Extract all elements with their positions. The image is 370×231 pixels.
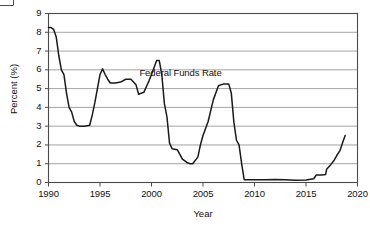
y-axis-label: Percent (%)	[9, 54, 19, 124]
y-tick-label-7: 7	[30, 46, 42, 56]
series-annotation-federal-funds-rate: Federal Funds Rate	[139, 67, 221, 78]
x-tick-label-2015: 2015	[286, 189, 326, 199]
y-tick-label-0: 0	[30, 177, 42, 187]
gridlines	[49, 32, 358, 163]
x-tick-label-2010: 2010	[235, 189, 275, 199]
y-tick-label-8: 8	[30, 27, 42, 37]
y-tick-label-2: 2	[30, 139, 42, 149]
axis-ticks	[45, 14, 358, 187]
x-tick-label-2005: 2005	[183, 189, 223, 199]
y-tick-label-1: 1	[30, 158, 42, 168]
y-tick-label-9: 9	[30, 8, 42, 18]
series-line-0	[49, 28, 346, 181]
x-tick-label-1990: 1990	[29, 189, 69, 199]
plot-frame	[49, 14, 358, 183]
y-tick-label-6: 6	[30, 64, 42, 74]
chart-figure: 0123456789 1990199520002005201020152020 …	[0, 0, 370, 231]
x-tick-label-2000: 2000	[132, 189, 172, 199]
y-tick-label-5: 5	[30, 83, 42, 93]
plot-border	[49, 14, 358, 183]
y-tick-label-3: 3	[30, 121, 42, 131]
y-tick-label-4: 4	[30, 102, 42, 112]
x-axis-label: Year	[48, 208, 358, 219]
x-tick-label-2020: 2020	[338, 189, 370, 199]
data-series-federal-funds-rate	[49, 28, 346, 181]
x-tick-label-1995: 1995	[80, 189, 120, 199]
